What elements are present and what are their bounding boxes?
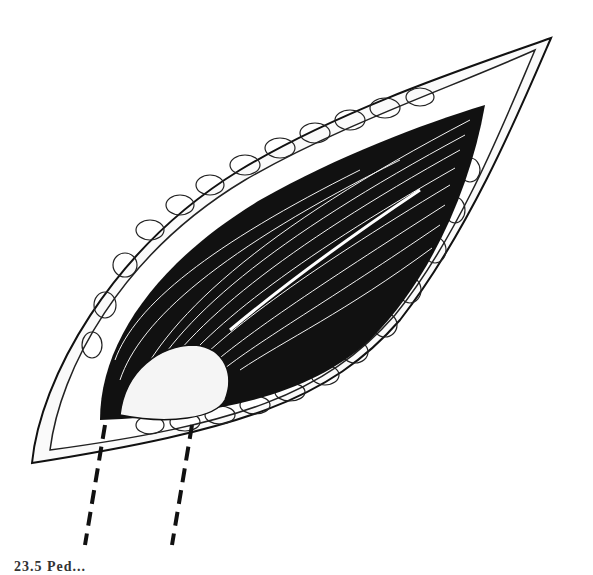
pointer-line-right xyxy=(172,425,192,545)
figure-caption-fragment: 23.5 Ped... xyxy=(14,559,86,575)
